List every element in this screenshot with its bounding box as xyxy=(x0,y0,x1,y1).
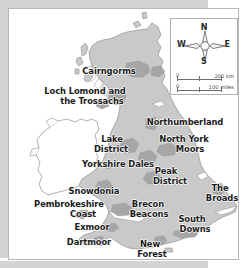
page-margin-top xyxy=(0,0,208,8)
page-margin-right xyxy=(241,0,247,268)
label-new-forest-line2: Forest xyxy=(137,250,166,260)
label-northumberland: Northumberland xyxy=(147,118,223,128)
label-lake-district-line2: District xyxy=(94,145,128,155)
scale-km-max: 200 km xyxy=(214,73,234,79)
label-cairngorms: Cairngorms xyxy=(82,67,135,77)
label-loch-lomond-line2: the Trossachs xyxy=(60,97,123,107)
map-frame: Cairngorms Loch Lomond and the Trossachs… xyxy=(8,8,239,260)
compass-south-label: S xyxy=(201,57,207,66)
label-peak-district-line2: District xyxy=(153,177,187,187)
label-the-broads-line2: Broads xyxy=(206,194,238,204)
scale-miles-tick-1 xyxy=(199,87,200,92)
compass-north-label: N xyxy=(201,23,208,32)
label-yorkshire-dales: Yorkshire Dales xyxy=(82,160,154,170)
page-margin-left xyxy=(0,0,8,258)
label-brecon-beacons-l2: Beacons xyxy=(130,210,169,220)
label-pembrokeshire-line2: Coast xyxy=(70,210,96,220)
scale-km-tick-1 xyxy=(199,76,200,81)
page-margin-bottom xyxy=(0,261,208,268)
compass-rose: N S W E xyxy=(171,21,237,71)
map-inset-legend: N S W E 0 200 km 0 xyxy=(170,18,238,95)
scale-km-tick-0 xyxy=(177,76,178,81)
scale-bars: 0 200 km 0 100 miles xyxy=(176,73,234,95)
scale-bar-miles: 0 100 miles xyxy=(176,84,234,95)
scale-bar-km: 0 200 km xyxy=(176,73,234,84)
label-south-downs-line2: Downs xyxy=(180,225,211,235)
label-dartmoor: Dartmoor xyxy=(67,238,111,248)
scale-miles-max: 100 miles xyxy=(209,84,234,90)
compass-west-label: W xyxy=(177,40,186,49)
uk-national-parks-map: Cairngorms Loch Lomond and the Trossachs… xyxy=(0,0,247,268)
label-north-york-moors-l2: Moors xyxy=(176,145,204,155)
label-exmoor: Exmoor xyxy=(75,223,110,233)
compass-east-label: E xyxy=(225,40,230,49)
scale-miles-tick-0 xyxy=(177,87,178,92)
label-snowdonia: Snowdonia xyxy=(69,187,120,197)
